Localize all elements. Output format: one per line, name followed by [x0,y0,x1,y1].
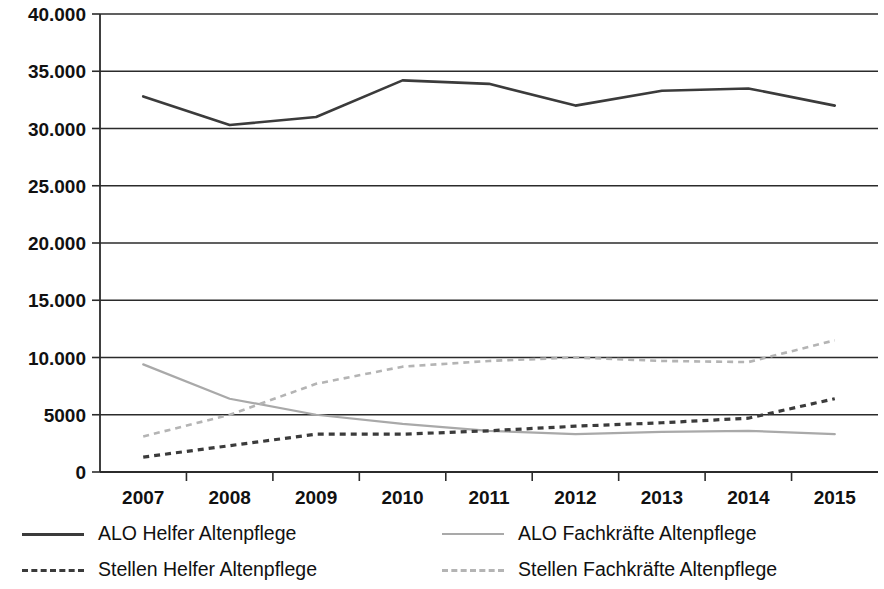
legend-item-stellen-fachkraefte: Stellen Fachkräfte Altenpflege [422,560,884,580]
legend-label-alo-fachkraefte: ALO Fachkräfte Altenpflege [518,524,756,544]
legend-label-stellen-fachkraefte: Stellen Fachkräfte Altenpflege [518,560,777,580]
chart-container: 0500010.00015.00020.00025.00030.00035.00… [0,0,884,589]
x-axis-tick-label: 2012 [554,487,596,508]
data-series-lines [143,80,835,457]
y-axis-tick-label: 25.000 [28,176,86,197]
x-axis-tick-label: 2014 [727,487,770,508]
series-line [143,80,835,125]
line-chart-plot: 0500010.00015.00020.00025.00030.00035.00… [0,0,884,510]
axis-tickmarks [92,14,792,481]
x-axis-tick-label: 2007 [122,487,164,508]
y-axis-tick-label: 40.000 [28,4,86,25]
x-axis-tick-label: 2015 [814,487,857,508]
y-axis-tick-label: 35.000 [28,61,86,82]
x-axis-tick-label: 2013 [641,487,683,508]
legend-item-stellen-helfer: Stellen Helfer Altenpflege [22,560,422,580]
y-axis-tick-label: 15.000 [28,290,86,311]
x-axis-tick-labels: 200720082009201020112012201320142015 [122,487,856,508]
legend-item-alo-helfer: ALO Helfer Altenpflege [22,524,422,544]
y-axis-tick-labels: 0500010.00015.00020.00025.00030.00035.00… [28,4,86,483]
y-axis-tick-label: 30.000 [28,119,86,140]
y-axis-tick-label: 20.000 [28,233,86,254]
x-axis-tick-label: 2008 [209,487,251,508]
legend-swatch-dark-dashed-icon [22,569,84,572]
legend-swatch-dark-solid-icon [22,533,84,536]
x-axis-tick-label: 2011 [468,487,510,508]
x-axis-tick-label: 2010 [381,487,423,508]
legend-label-stellen-helfer: Stellen Helfer Altenpflege [98,560,317,580]
legend-swatch-light-dashed-icon [442,569,504,572]
y-axis-tick-label: 0 [75,462,86,483]
y-axis-tick-label: 5000 [44,405,86,426]
series-line [143,340,835,436]
series-line [143,364,835,434]
legend-swatch-light-solid-icon [442,533,504,535]
series-line [143,399,835,457]
x-axis-tick-label: 2009 [295,487,337,508]
y-axis-tick-label: 10.000 [28,348,86,369]
chart-legend: ALO Helfer Altenpflege ALO Fachkräfte Al… [0,516,884,589]
legend-label-alo-helfer: ALO Helfer Altenpflege [98,524,296,544]
legend-item-alo-fachkraefte: ALO Fachkräfte Altenpflege [422,524,884,544]
